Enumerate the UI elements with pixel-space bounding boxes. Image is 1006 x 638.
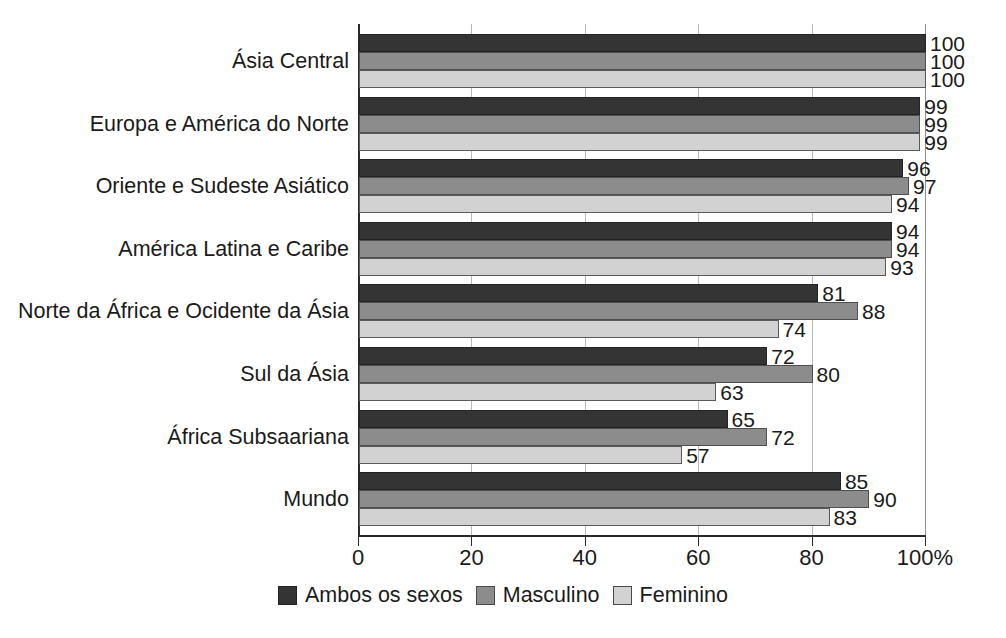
bar bbox=[359, 320, 779, 338]
bar-value-label: 72 bbox=[771, 427, 794, 448]
bar-value-label: 100 bbox=[930, 69, 965, 90]
category-label: Mundo bbox=[0, 486, 349, 512]
x-axis-line bbox=[358, 535, 926, 537]
category-label: África Subsaariana bbox=[0, 424, 349, 450]
legend-label: Feminino bbox=[640, 583, 728, 607]
bar-chart: 020406080100% Ásia CentralEuropa e Améri… bbox=[0, 0, 1006, 638]
bar bbox=[359, 428, 767, 446]
bar bbox=[359, 177, 909, 195]
x-tick-label: 100% bbox=[897, 545, 953, 571]
bar bbox=[359, 383, 716, 401]
x-tick-label: 0 bbox=[352, 545, 364, 571]
legend-item[interactable]: Ambos os sexos bbox=[278, 583, 463, 607]
chart-legend: Ambos os sexosMasculinoFeminino bbox=[0, 583, 1006, 607]
bar bbox=[359, 446, 682, 464]
x-tick-label: 80 bbox=[799, 545, 823, 571]
bar bbox=[359, 490, 869, 508]
bar bbox=[359, 159, 903, 177]
bar bbox=[359, 240, 892, 258]
x-tick-label: 20 bbox=[459, 545, 483, 571]
category-label: Ásia Central bbox=[0, 48, 349, 74]
category-label: América Latina e Caribe bbox=[0, 236, 349, 262]
bar-value-label: 99 bbox=[924, 132, 947, 153]
bar bbox=[359, 222, 892, 240]
bar-value-label: 81 bbox=[822, 283, 845, 304]
x-tick-label: 60 bbox=[686, 545, 710, 571]
category-label: Oriente e Sudeste Asiático bbox=[0, 173, 349, 199]
bar-value-label: 74 bbox=[783, 319, 806, 340]
bar-value-label: 65 bbox=[732, 409, 755, 430]
legend-label: Masculino bbox=[503, 583, 600, 607]
bar bbox=[359, 115, 920, 133]
bar-value-label: 93 bbox=[890, 257, 913, 278]
category-label: Sul da Ásia bbox=[0, 361, 349, 387]
bar bbox=[359, 195, 892, 213]
bar-value-label: 80 bbox=[817, 364, 840, 385]
x-tick-label: 40 bbox=[573, 545, 597, 571]
bar bbox=[359, 508, 830, 526]
category-label: Norte da África e Ocidente da Ásia bbox=[0, 298, 349, 324]
bar bbox=[359, 410, 728, 428]
bar-value-label: 88 bbox=[862, 301, 885, 322]
legend-label: Ambos os sexos bbox=[305, 583, 463, 607]
bar-value-label: 63 bbox=[720, 382, 743, 403]
bar bbox=[359, 472, 841, 490]
bar-value-label: 57 bbox=[686, 445, 709, 466]
bar-value-label: 90 bbox=[873, 489, 896, 510]
bar bbox=[359, 133, 920, 151]
legend-item[interactable]: Feminino bbox=[613, 583, 728, 607]
legend-swatch-icon bbox=[476, 586, 495, 605]
bar bbox=[359, 347, 767, 365]
bar bbox=[359, 70, 926, 88]
bar-value-label: 85 bbox=[845, 471, 868, 492]
legend-swatch-icon bbox=[613, 586, 632, 605]
bar bbox=[359, 34, 926, 52]
legend-item[interactable]: Masculino bbox=[476, 583, 600, 607]
legend-swatch-icon bbox=[278, 586, 297, 605]
bar bbox=[359, 284, 818, 302]
bar-value-label: 94 bbox=[896, 194, 919, 215]
bar bbox=[359, 365, 813, 383]
bar bbox=[359, 52, 926, 70]
bar-value-label: 72 bbox=[771, 346, 794, 367]
bar bbox=[359, 258, 886, 276]
bar bbox=[359, 97, 920, 115]
category-label: Europa e América do Norte bbox=[0, 111, 349, 137]
bar-value-label: 83 bbox=[834, 507, 857, 528]
